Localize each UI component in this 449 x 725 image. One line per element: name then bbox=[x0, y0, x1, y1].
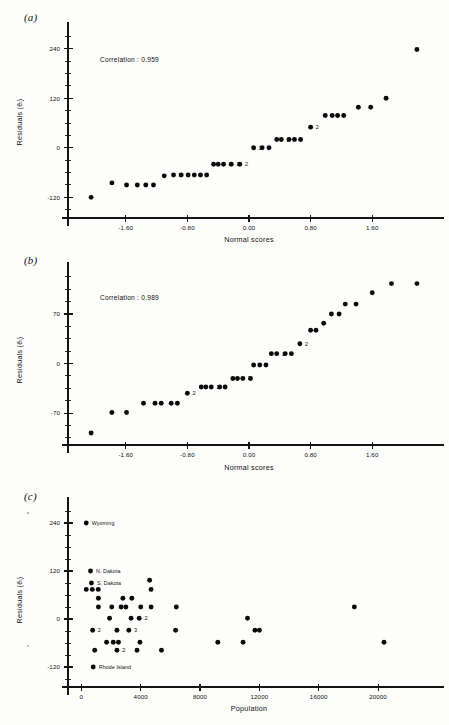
data-point bbox=[88, 569, 93, 574]
data-point bbox=[135, 648, 140, 653]
data-point bbox=[119, 605, 124, 610]
data-point bbox=[354, 302, 359, 307]
panel-b-plot: -70070-1.60-0.800.000.801.60Normal score… bbox=[0, 245, 449, 485]
data-point bbox=[329, 312, 334, 317]
data-point bbox=[141, 401, 146, 406]
data-point bbox=[209, 384, 214, 389]
data-point bbox=[147, 578, 152, 583]
data-point bbox=[186, 173, 191, 178]
data-point bbox=[84, 521, 89, 526]
data-point bbox=[149, 587, 154, 592]
data-point bbox=[251, 145, 256, 150]
point-count-label: 2 bbox=[122, 647, 125, 653]
data-point bbox=[240, 376, 245, 381]
data-point bbox=[289, 351, 294, 356]
point-count-label: 2 bbox=[245, 161, 248, 167]
panel-c-xtick-label: 20000 bbox=[369, 693, 387, 700]
data-point bbox=[414, 47, 419, 52]
data-point bbox=[337, 312, 342, 317]
data-point bbox=[199, 384, 204, 389]
point-count-label: 2 bbox=[316, 124, 319, 130]
data-point bbox=[107, 616, 112, 621]
panel-b-xtick-label: -1.60 bbox=[118, 451, 133, 458]
panel-c-plot: -1200120240040008000120001600020000Popul… bbox=[0, 485, 449, 725]
data-point bbox=[223, 384, 228, 389]
data-point bbox=[120, 596, 125, 601]
data-point bbox=[96, 596, 101, 601]
data-point bbox=[298, 137, 303, 142]
panel-c: (c) -1200120240040008000120001600020000P… bbox=[0, 485, 449, 725]
data-point bbox=[368, 105, 373, 110]
data-point bbox=[137, 616, 142, 621]
panel-b-ytick-label: -70 bbox=[51, 409, 61, 416]
data-point bbox=[96, 605, 101, 610]
data-point bbox=[248, 376, 253, 381]
panel-a-ytick-label: 0 bbox=[56, 144, 60, 151]
data-point bbox=[126, 628, 131, 633]
data-point bbox=[251, 363, 256, 368]
figure-page: (a) -1200120240-1.60-0.800.000.801.60Nor… bbox=[0, 0, 449, 725]
data-point bbox=[91, 665, 96, 670]
data-point bbox=[321, 321, 326, 326]
data-point bbox=[269, 351, 274, 356]
data-point bbox=[203, 384, 208, 389]
data-point bbox=[252, 628, 257, 633]
panel-b-xtick-label: -0.80 bbox=[180, 451, 195, 458]
scan-speck bbox=[27, 512, 29, 514]
data-point bbox=[159, 401, 164, 406]
data-point bbox=[204, 173, 209, 178]
panel-a-xtick-label: 1.60 bbox=[366, 224, 379, 231]
data-point bbox=[343, 302, 348, 307]
panel-c-xtick-label: 0 bbox=[80, 693, 84, 700]
panel-c-yaxis-title: Residuals (êᵢ) bbox=[15, 577, 24, 624]
panel-b-xtick-label: 0.00 bbox=[243, 451, 256, 458]
point-state-label: Rhode Island bbox=[99, 664, 131, 670]
data-point bbox=[229, 162, 234, 167]
data-point bbox=[341, 113, 346, 118]
data-point bbox=[279, 137, 284, 142]
panel-a-xtick-label: -0.80 bbox=[180, 224, 195, 231]
point-count-label: 2 bbox=[193, 390, 196, 396]
point-count-label: 2 bbox=[144, 615, 147, 621]
data-point bbox=[90, 628, 95, 633]
panel-a-xtick-label: -1.60 bbox=[118, 224, 133, 231]
panel-a-correlation-annotation: Correlation : 0.959 bbox=[100, 56, 159, 63]
data-point bbox=[297, 341, 302, 346]
data-point bbox=[116, 640, 121, 645]
data-point bbox=[370, 290, 375, 295]
point-state-label: N. Dakota bbox=[96, 568, 120, 574]
panel-a-ytick-label: 240 bbox=[49, 45, 60, 52]
data-point bbox=[89, 431, 94, 436]
panel-c-ytick-label: 0 bbox=[56, 615, 60, 622]
data-point bbox=[389, 281, 394, 286]
data-point bbox=[245, 616, 250, 621]
data-point bbox=[211, 162, 216, 167]
data-point bbox=[124, 410, 129, 415]
data-point bbox=[215, 640, 220, 645]
data-point bbox=[241, 640, 246, 645]
panel-a-plot: -1200120240-1.60-0.800.000.801.60Normal … bbox=[0, 0, 449, 245]
data-point bbox=[260, 145, 265, 150]
data-point bbox=[104, 640, 109, 645]
data-point bbox=[216, 162, 221, 167]
data-point bbox=[314, 328, 319, 333]
panel-a: (a) -1200120240-1.60-0.800.000.801.60Nor… bbox=[0, 0, 449, 245]
data-point bbox=[90, 587, 95, 592]
panel-b-xaxis-title: Normal scores bbox=[224, 463, 274, 472]
data-point bbox=[162, 173, 167, 178]
data-point bbox=[115, 628, 120, 633]
data-point bbox=[135, 183, 140, 188]
data-point bbox=[308, 328, 313, 333]
data-point bbox=[179, 173, 184, 178]
data-point bbox=[149, 605, 154, 610]
data-point bbox=[192, 173, 197, 178]
point-count-label: 2 bbox=[98, 627, 101, 633]
panel-a-ytick-label: 120 bbox=[49, 95, 60, 102]
data-point bbox=[356, 105, 361, 110]
panel-c-xtick-label: 12000 bbox=[251, 693, 269, 700]
data-point bbox=[414, 281, 419, 286]
panel-c-ytick-label: -120 bbox=[47, 663, 60, 670]
data-point bbox=[237, 162, 242, 167]
data-point bbox=[174, 605, 179, 610]
panel-a-ytick-label: -120 bbox=[47, 194, 60, 201]
